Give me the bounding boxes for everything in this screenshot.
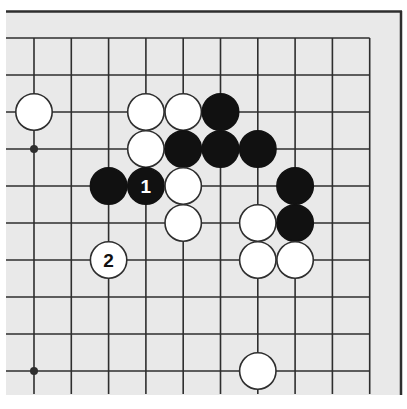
white-stone	[240, 242, 276, 278]
move-number-label: 1	[141, 176, 152, 197]
white-stone	[165, 168, 201, 204]
go-diagram: 12	[0, 0, 407, 409]
black-stone	[202, 131, 238, 167]
black-stone	[165, 131, 201, 167]
white-stone	[277, 242, 313, 278]
white-stone	[16, 94, 52, 130]
white-stone	[240, 353, 276, 389]
black-stone: 1	[128, 168, 164, 204]
star-point	[30, 367, 38, 375]
white-stone	[128, 94, 164, 130]
white-stone	[240, 205, 276, 241]
board-background	[6, 11, 401, 395]
white-stone	[128, 131, 164, 167]
black-stone	[90, 168, 126, 204]
black-stone	[240, 131, 276, 167]
go-board: 12	[0, 0, 407, 409]
black-stone	[277, 168, 313, 204]
star-point	[30, 145, 38, 153]
white-stone: 2	[90, 242, 126, 278]
white-stone	[165, 94, 201, 130]
black-stone	[202, 94, 238, 130]
white-stone	[165, 205, 201, 241]
move-number-label: 2	[103, 250, 114, 271]
black-stone	[277, 205, 313, 241]
